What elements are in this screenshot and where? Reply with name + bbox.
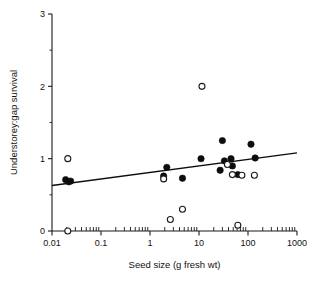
x-tick-label: 10 xyxy=(194,238,204,248)
data-point-filled xyxy=(252,155,258,161)
data-point-open xyxy=(161,176,167,182)
data-point-open xyxy=(229,172,235,178)
scatter-plot-figure: 01230.010.11101001000Seed size (g fresh … xyxy=(0,0,319,282)
data-point-open xyxy=(167,216,173,222)
data-point-open xyxy=(65,228,71,234)
y-tick-label: 0 xyxy=(40,226,45,236)
data-point-open xyxy=(65,156,71,162)
data-point-filled xyxy=(179,175,185,181)
data-point-open xyxy=(199,83,205,89)
y-tick-label: 2 xyxy=(40,82,45,92)
plot-canvas: 01230.010.11101001000Seed size (g fresh … xyxy=(0,0,319,282)
regression-line xyxy=(52,153,297,186)
x-axis-title: Seed size (g fresh wt) xyxy=(129,259,221,270)
y-axis-title: Understorey:gap survival xyxy=(8,70,19,175)
y-tick-label: 1 xyxy=(40,154,45,164)
data-point-filled xyxy=(219,137,225,143)
x-tick-label: 1 xyxy=(147,238,152,248)
x-tick-label: 0.1 xyxy=(95,238,108,248)
x-tick-label: 100 xyxy=(240,238,255,248)
data-point-open xyxy=(239,172,245,178)
x-tick-label: 1000 xyxy=(287,238,307,248)
data-point-filled xyxy=(198,155,204,161)
data-point-filled xyxy=(228,155,234,161)
data-point-open xyxy=(179,206,185,212)
y-tick-label: 3 xyxy=(40,9,45,19)
data-point-filled xyxy=(217,167,223,173)
data-point-open xyxy=(235,222,241,228)
data-point-open xyxy=(251,172,257,178)
data-point-filled xyxy=(164,164,170,170)
data-point-open xyxy=(224,161,230,167)
x-tick-label: 0.01 xyxy=(43,238,61,248)
data-point-filled xyxy=(248,141,254,147)
data-point-filled xyxy=(67,178,73,184)
